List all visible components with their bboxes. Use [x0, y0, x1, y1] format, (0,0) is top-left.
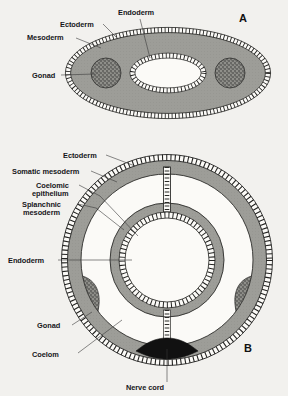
panel-b-letter: B — [244, 342, 252, 354]
label-a-gonad: Gonad — [32, 71, 56, 80]
label-b-coelomic-epithelium-line2: epithelium — [32, 189, 69, 198]
label-a-mesoderm: Mesoderm — [27, 33, 64, 42]
panel-a-letter: A — [239, 12, 247, 24]
anatomy-figure: Ectoderm Mesoderm Endoderm Gonad A — [0, 0, 288, 396]
label-b-coelom: Coelom — [32, 350, 59, 359]
panel-b: Ectoderm Somatic mesoderm Coelomic epith… — [8, 151, 274, 392]
panel-b-gut-lumen — [125, 218, 209, 302]
panel-a: Ectoderm Mesoderm Endoderm Gonad A — [27, 8, 271, 119]
label-b-nerve-cord: Nerve cord — [126, 383, 165, 392]
label-b-splanchnic-mesoderm-line2: mesoderm — [23, 208, 60, 217]
label-b-ectoderm: Ectoderm — [63, 151, 97, 160]
label-b-endoderm: Endoderm — [8, 256, 45, 265]
panel-a-gonad-right — [215, 58, 245, 88]
label-a-ectoderm: Ectoderm — [60, 20, 94, 29]
label-b-somatic-mesoderm: Somatic mesoderm — [12, 167, 80, 176]
panel-a-gonad-left — [91, 58, 121, 88]
label-b-gonad: Gonad — [37, 321, 61, 330]
label-a-endoderm: Endoderm — [118, 8, 155, 17]
